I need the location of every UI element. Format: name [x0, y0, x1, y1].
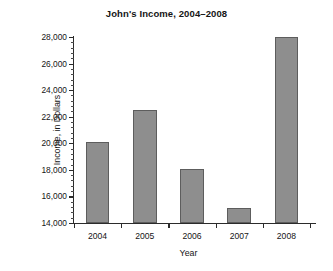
y-tick-mark — [69, 117, 74, 118]
x-tick-mark — [263, 223, 264, 228]
y-tick-label: 22,000 — [41, 112, 67, 122]
y-minor-tick-mark — [71, 95, 74, 96]
y-tick-label: 24,000 — [41, 85, 67, 95]
y-minor-tick-mark — [71, 202, 74, 203]
x-tick-label: 2007 — [230, 231, 249, 241]
y-minor-tick-mark — [71, 69, 74, 70]
x-tick-mark — [216, 223, 217, 228]
y-minor-tick-mark — [71, 58, 74, 59]
y-tick-label: 14,000 — [41, 218, 67, 228]
x-tick-label: 2004 — [88, 231, 107, 241]
bar — [275, 37, 299, 223]
bar — [180, 169, 204, 223]
y-tick-label: 16,000 — [41, 191, 67, 201]
bar-chart-figure: John's Income, 2004–2008 Income, in Doll… — [0, 0, 333, 271]
y-tick-mark — [69, 90, 74, 91]
y-tick-mark — [69, 196, 74, 197]
y-minor-tick-mark — [71, 207, 74, 208]
plot-area: Income, in Dollars 14,00016,00018,00020,… — [74, 37, 310, 223]
x-tick-label: 2008 — [277, 231, 296, 241]
y-minor-tick-mark — [71, 111, 74, 112]
y-minor-tick-mark — [71, 122, 74, 123]
y-tick-label: 20,000 — [41, 138, 67, 148]
x-tick-mark — [121, 223, 122, 228]
x-tick-mark — [310, 223, 311, 228]
y-minor-tick-mark — [71, 149, 74, 150]
y-tick-label: 18,000 — [41, 165, 67, 175]
x-axis-line — [73, 223, 316, 224]
y-minor-tick-mark — [71, 186, 74, 187]
y-tick-label: 26,000 — [41, 59, 67, 69]
x-tick-mark — [168, 223, 169, 228]
y-minor-tick-mark — [71, 138, 74, 139]
bar — [133, 110, 157, 223]
y-minor-tick-mark — [71, 180, 74, 181]
y-axis-label: Income, in Dollars — [52, 95, 62, 165]
x-tick-label: 2005 — [135, 231, 154, 241]
y-tick-mark — [69, 170, 74, 171]
y-minor-tick-mark — [71, 80, 74, 81]
y-minor-tick-mark — [71, 212, 74, 213]
bar — [86, 142, 110, 223]
y-tick-label: 28,000 — [41, 32, 67, 42]
y-minor-tick-mark — [71, 133, 74, 134]
y-minor-tick-mark — [71, 106, 74, 107]
y-minor-tick-mark — [71, 74, 74, 75]
y-tick-mark — [69, 64, 74, 65]
y-minor-tick-mark — [71, 218, 74, 219]
bar — [227, 208, 251, 223]
y-minor-tick-mark — [71, 191, 74, 192]
y-minor-tick-mark — [71, 101, 74, 102]
x-tick-mark — [74, 223, 75, 228]
y-minor-tick-mark — [71, 165, 74, 166]
y-minor-tick-mark — [71, 159, 74, 160]
y-minor-tick-mark — [71, 48, 74, 49]
y-minor-tick-mark — [71, 127, 74, 128]
y-minor-tick-mark — [71, 175, 74, 176]
y-minor-tick-mark — [71, 53, 74, 54]
x-tick-label: 2006 — [182, 231, 201, 241]
y-minor-tick-mark — [71, 154, 74, 155]
y-tick-mark — [69, 143, 74, 144]
y-minor-tick-mark — [71, 85, 74, 86]
y-minor-tick-mark — [71, 42, 74, 43]
x-axis-label: Year — [22, 248, 333, 258]
y-tick-mark — [69, 37, 74, 38]
chart-title: John's Income, 2004–2008 — [0, 8, 333, 19]
